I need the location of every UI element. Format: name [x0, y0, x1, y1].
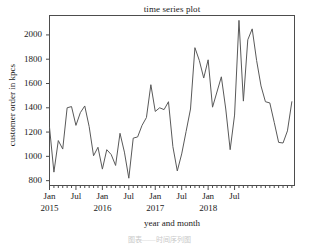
x-tick-year-label: 2017 — [138, 203, 172, 213]
y-tick-label: 1000 — [14, 152, 42, 161]
x-tick-label: Jul — [220, 191, 250, 201]
series-line-customer-order — [50, 20, 292, 178]
figure-container: time series plot customer order in kpcs … — [0, 0, 318, 245]
y-tick-marks — [46, 35, 50, 181]
y-tick-label: 1800 — [14, 55, 42, 64]
y-tick-label: 800 — [14, 176, 42, 185]
x-tick-year-label: 2015 — [33, 203, 67, 213]
x-tick-marks — [50, 186, 292, 191]
y-tick-label: 1600 — [14, 79, 42, 88]
x-tick-year-label: 2016 — [85, 203, 119, 213]
y-tick-label: 2000 — [14, 30, 42, 39]
x-tick-year-label: 2018 — [191, 203, 225, 213]
x-axis-label: year and month — [49, 218, 295, 228]
plot-frame — [50, 16, 295, 186]
y-tick-label: 1400 — [14, 103, 42, 112]
y-tick-label: 1200 — [14, 128, 42, 137]
figure-caption: 图表——时间序列图 — [0, 234, 318, 244]
